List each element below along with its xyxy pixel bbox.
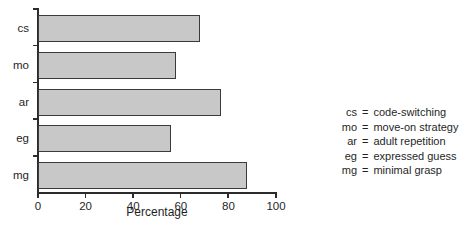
legend-abbr-cs: cs <box>336 107 357 118</box>
x-axis-tick <box>37 192 39 198</box>
legend-equals-sign: = <box>357 122 373 133</box>
x-axis-tick <box>132 192 134 198</box>
legend-abbr-mg: mg <box>336 165 357 176</box>
legend-item-eg: eg = expressed guess <box>336 151 458 166</box>
x-axis-tick <box>85 192 87 198</box>
y-axis-label-ar: ar <box>19 97 29 109</box>
legend-abbr-mo: mo <box>336 122 357 133</box>
y-axis-tick <box>33 8 39 10</box>
legend-equals-sign: = <box>357 136 373 147</box>
x-axis-tick <box>227 192 229 198</box>
y-axis-tick <box>33 82 39 84</box>
x-axis-tick <box>275 192 277 198</box>
legend-abbr-ar: ar <box>336 136 357 147</box>
x-axis-line <box>37 192 277 194</box>
y-axis-label-mo: mo <box>13 60 29 72</box>
bar-ar <box>38 89 221 116</box>
legend-item-mo: mo = move-on strategy <box>336 122 458 137</box>
legend-description-mg: minimal grasp <box>373 165 441 176</box>
y-axis-label-eg: eg <box>16 133 29 145</box>
y-axis-label-cs: cs <box>18 23 30 35</box>
legend-abbr-eg: eg <box>336 151 357 162</box>
y-axis-label-mg: mg <box>13 170 29 182</box>
legend-description-ar: adult repetition <box>373 136 445 147</box>
bar-chart-figure: cs mo ar eg mg 0 20 40 60 80 100 Percent… <box>0 0 464 230</box>
bar-cs <box>38 15 200 42</box>
x-axis-tick <box>180 192 182 198</box>
legend-equals-sign: = <box>357 151 373 162</box>
legend-description-eg: expressed guess <box>373 151 456 162</box>
legend-equals-sign: = <box>357 165 373 176</box>
legend-item-ar: ar = adult repetition <box>336 136 458 151</box>
y-axis-tick <box>33 45 39 47</box>
legend: cs = code-switching mo = move-on strateg… <box>336 107 458 180</box>
legend-equals-sign: = <box>357 107 373 118</box>
plot-area: cs mo ar eg mg 0 20 40 60 80 100 <box>38 12 276 192</box>
legend-item-cs: cs = code-switching <box>336 107 458 122</box>
bar-mo <box>38 52 176 79</box>
bar-mg <box>38 162 247 189</box>
legend-description-mo: move-on strategy <box>373 122 458 133</box>
legend-item-mg: mg = minimal grasp <box>336 165 458 180</box>
y-axis-tick <box>33 155 39 157</box>
legend-description-cs: code-switching <box>373 107 446 118</box>
x-axis-title: Percentage <box>38 206 276 218</box>
y-axis-tick <box>33 118 39 120</box>
bar-eg <box>38 125 171 152</box>
